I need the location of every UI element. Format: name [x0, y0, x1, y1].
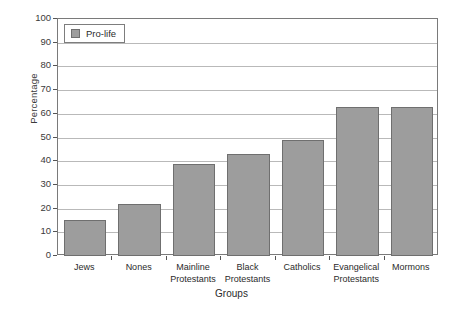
y-axis-tick-label: 100 — [11, 13, 51, 23]
bar — [282, 140, 324, 256]
gridline — [58, 138, 437, 139]
x-axis-tick-mark — [384, 256, 385, 260]
y-axis-tick-label: 20 — [11, 203, 51, 213]
plot-area: Pro-life — [57, 18, 438, 255]
legend: Pro-life — [64, 24, 125, 43]
y-axis-tick-label: 90 — [11, 37, 51, 47]
y-axis-tick-label: 80 — [11, 60, 51, 70]
x-axis-tick-label-line: Mormons — [384, 262, 438, 274]
bar — [118, 204, 160, 256]
x-axis-tick-label-line: Jews — [57, 262, 111, 274]
y-axis-tick-label: 50 — [11, 132, 51, 142]
x-axis-tick-mark — [166, 256, 167, 260]
bar — [227, 154, 269, 256]
y-axis-tick-label: 70 — [11, 84, 51, 94]
x-axis-tick-label-line: Nones — [111, 262, 165, 274]
legend-label-pro-life: Pro-life — [86, 28, 116, 39]
x-axis-tick-label-line: Protestants — [166, 274, 220, 286]
x-axis-tick-label-line: Catholics — [275, 262, 329, 274]
y-axis-tick-label: 0 — [11, 250, 51, 260]
x-axis-tick-mark — [329, 256, 330, 260]
y-axis-tick-label: 30 — [11, 179, 51, 189]
x-axis-tick-label-line: Black — [220, 262, 274, 274]
gridline — [58, 90, 437, 91]
x-axis-tick-mark — [111, 256, 112, 260]
x-axis-tick-mark — [220, 256, 221, 260]
x-axis-tick-label-line: Mainline — [166, 262, 220, 274]
x-axis-tick-mark — [275, 256, 276, 260]
x-axis-tick-label: Nones — [111, 262, 165, 274]
x-axis-tick-label: Catholics — [275, 262, 329, 274]
bar — [336, 107, 378, 256]
x-axis-tick-label: Jews — [57, 262, 111, 274]
gridline — [58, 114, 437, 115]
legend-swatch-pro-life — [71, 29, 80, 38]
y-axis-tick-label: 40 — [11, 155, 51, 165]
gridline — [58, 66, 437, 67]
bar — [173, 164, 215, 256]
bar — [391, 107, 433, 256]
y-axis-tick-mark — [53, 255, 57, 256]
x-axis-tick-label: EvangelicalProtestants — [329, 262, 383, 285]
x-axis-tick-label-line: Protestants — [220, 274, 274, 286]
x-axis-tick-label: Mormons — [384, 262, 438, 274]
y-axis-tick-label: 10 — [11, 226, 51, 236]
x-axis-tick-label: BlackProtestants — [220, 262, 274, 285]
x-axis-title: Groups — [0, 288, 463, 299]
x-axis-tick-label-line: Protestants — [329, 274, 383, 286]
bar-chart: Percentage 0102030405060708090100 Pro-li… — [0, 0, 463, 312]
x-axis-tick-label-line: Evangelical — [329, 262, 383, 274]
x-axis-tick-label: MainlineProtestants — [166, 262, 220, 285]
bar — [64, 220, 106, 256]
y-axis-tick-label: 60 — [11, 108, 51, 118]
